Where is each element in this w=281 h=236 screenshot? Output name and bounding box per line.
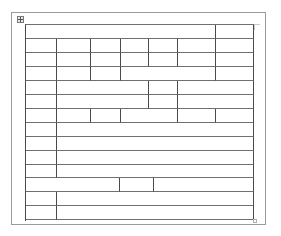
table-cell[interactable] — [57, 137, 254, 151]
table-cell[interactable] — [57, 53, 91, 67]
table-move-handle-icon[interactable] — [17, 16, 24, 23]
table-cell[interactable] — [25, 109, 57, 123]
table-cell[interactable] — [25, 81, 57, 95]
table-cell[interactable] — [25, 151, 57, 165]
table-cell[interactable] — [120, 178, 154, 192]
table-cell[interactable] — [121, 39, 149, 53]
table-cell[interactable] — [25, 67, 57, 81]
table-cell[interactable] — [57, 67, 91, 81]
table-cell[interactable] — [25, 24, 216, 39]
table-cell[interactable] — [25, 165, 57, 178]
table-cell[interactable] — [178, 81, 254, 95]
table-cell[interactable] — [178, 109, 216, 123]
table-cell[interactable] — [57, 192, 254, 206]
table-resize-handle-icon[interactable] — [253, 219, 257, 223]
table-cell[interactable] — [25, 137, 57, 151]
table-cell[interactable] — [25, 206, 57, 220]
table-cell[interactable] — [25, 123, 57, 137]
table-cell[interactable] — [178, 95, 254, 109]
table-cell[interactable] — [25, 39, 57, 53]
table-cell[interactable] — [216, 67, 254, 81]
table-cell[interactable] — [91, 53, 121, 67]
table-cell[interactable] — [121, 109, 178, 123]
table-cell[interactable] — [149, 39, 178, 53]
table-cell[interactable] — [154, 178, 254, 192]
table-cell[interactable] — [25, 178, 120, 192]
table-cell[interactable] — [149, 53, 178, 67]
table-cell[interactable] — [25, 192, 57, 206]
table-cell[interactable] — [91, 67, 121, 81]
table-cell[interactable] — [57, 151, 254, 165]
table-cell[interactable] — [91, 39, 121, 53]
table-cell[interactable] — [57, 206, 254, 220]
table-cell[interactable] — [57, 39, 91, 53]
table-cell[interactable] — [25, 53, 57, 67]
table-cell[interactable] — [57, 123, 254, 137]
table-cell[interactable] — [57, 81, 149, 95]
table-cell[interactable] — [216, 24, 254, 39]
table-cell[interactable] — [25, 95, 57, 109]
table-cell[interactable] — [216, 109, 254, 123]
table-cell[interactable] — [121, 67, 216, 81]
table-cell[interactable] — [57, 95, 149, 109]
table-cell[interactable] — [121, 53, 149, 67]
document-table — [25, 24, 254, 221]
table-cell[interactable] — [216, 39, 254, 53]
table-cell[interactable] — [149, 95, 178, 109]
table-cell[interactable] — [57, 109, 91, 123]
margin-corner-mark-top-right-h — [254, 24, 260, 25]
table-cell[interactable] — [178, 53, 216, 67]
table-cell[interactable] — [178, 39, 216, 53]
table-cell[interactable] — [91, 109, 121, 123]
table-cell[interactable] — [149, 81, 178, 95]
table-cell[interactable] — [216, 53, 254, 67]
table-cell[interactable] — [57, 165, 254, 178]
